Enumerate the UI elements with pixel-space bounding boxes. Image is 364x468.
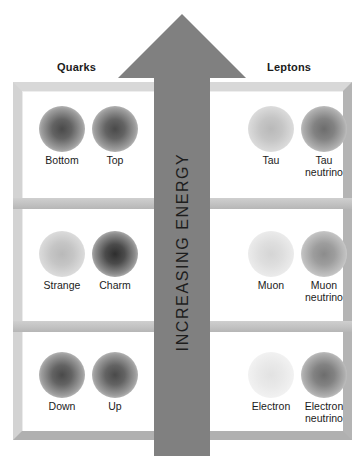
particle-label: Electron neutrino xyxy=(277,401,364,424)
particle-tau-neutrino[interactable]: Tau neutrino xyxy=(277,106,364,178)
particle-electron-neutrino[interactable]: Electron neutrino xyxy=(277,352,364,424)
diagram-canvas: Quarks Leptons BottomTopTauTau neutrinoS… xyxy=(0,0,364,468)
column-header-quarks: Quarks xyxy=(57,61,96,73)
particle-sphere-icon xyxy=(301,352,347,398)
particle-label: Muon neutrino xyxy=(277,280,364,303)
column-header-leptons: Leptons xyxy=(267,61,311,73)
increasing-energy-arrow-icon xyxy=(118,14,246,456)
particle-muon-neutrino[interactable]: Muon neutrino xyxy=(277,231,364,303)
particle-label: Tau neutrino xyxy=(277,155,364,178)
particle-sphere-icon xyxy=(301,231,347,277)
particle-sphere-icon xyxy=(301,106,347,152)
